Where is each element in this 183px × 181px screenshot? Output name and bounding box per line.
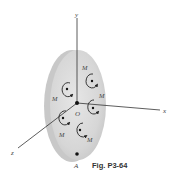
point-a-label: A xyxy=(73,162,79,170)
couple-label-upper-right: M xyxy=(81,64,88,71)
couple-label-upper-left: M xyxy=(51,95,58,102)
couple-label-lower-left: M xyxy=(58,131,65,138)
y-axis-label: y xyxy=(74,11,79,19)
origin-point xyxy=(75,101,79,105)
couple-label-right: M xyxy=(98,92,105,99)
z-axis-label: z xyxy=(10,149,14,157)
origin-label: O xyxy=(75,110,80,118)
figure-diagram: y x z O A M M M M M Fig. P3-64 xyxy=(0,0,183,181)
x-axis-label: x xyxy=(162,107,167,115)
point-a xyxy=(75,152,79,156)
couple-label-bottom: M xyxy=(86,136,93,143)
figure-caption: Fig. P3-64 xyxy=(92,161,128,170)
